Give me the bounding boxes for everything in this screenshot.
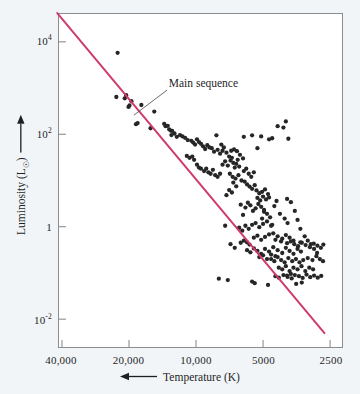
star-data-point [269, 252, 273, 256]
star-data-point [281, 273, 285, 277]
star-data-point [285, 197, 289, 201]
star-data-point [207, 145, 211, 149]
star-data-point [259, 205, 263, 209]
star-data-point [303, 234, 307, 238]
solar-symbol-icon: ☉ [22, 161, 31, 168]
star-data-point [139, 103, 143, 107]
star-data-point [253, 206, 257, 210]
star-data-point [248, 203, 252, 207]
star-data-point [233, 165, 237, 169]
star-data-point [285, 221, 289, 225]
star-data-point [284, 246, 288, 250]
star-data-point [276, 234, 280, 238]
star-data-point [284, 264, 288, 268]
star-data-point [298, 227, 302, 231]
star-data-point [312, 242, 316, 246]
star-data-point [218, 172, 222, 176]
star-data-point [276, 124, 280, 128]
y-axis-title-text: Luminosity (L☉) [16, 157, 28, 235]
star-data-point [283, 260, 287, 264]
star-data-point [314, 254, 318, 258]
star-data-point [226, 278, 230, 282]
star-data-point [263, 187, 267, 191]
star-data-point [203, 147, 207, 151]
x-tick-label: 10,000 [180, 354, 211, 366]
star-data-point [230, 156, 234, 160]
y-axis-ticks-group [59, 42, 66, 319]
star-data-point [236, 158, 240, 162]
star-data-point [228, 242, 232, 246]
star-data-point [285, 241, 289, 245]
star-data-point [273, 238, 277, 242]
star-data-point [233, 176, 237, 180]
star-data-point [217, 277, 221, 281]
star-data-point [308, 275, 312, 279]
star-data-point [290, 259, 294, 263]
star-data-point [270, 223, 274, 227]
hr-diagram-figure: 40,00020,00010,00050002500 104102110-2 M… [0, 0, 360, 394]
star-data-point [312, 273, 316, 277]
star-data-point [236, 173, 240, 177]
star-data-point [263, 247, 267, 251]
star-data-point [249, 175, 253, 179]
star-data-point [224, 151, 228, 155]
star-data-point [223, 159, 227, 163]
annotation-leader-line-group [134, 90, 167, 115]
star-data-point [261, 222, 265, 226]
star-data-point [286, 256, 290, 260]
star-data-point [258, 198, 262, 202]
star-data-point [319, 274, 323, 278]
star-data-point [291, 266, 295, 270]
star-data-point [260, 216, 264, 220]
star-data-point [299, 264, 303, 268]
star-data-point [291, 239, 295, 243]
star-data-point [241, 156, 245, 160]
star-data-point [297, 260, 301, 264]
star-data-point [279, 258, 283, 262]
star-data-point [252, 236, 256, 240]
star-data-point [294, 282, 298, 286]
x-axis-title-text: Temperature (K) [163, 371, 240, 383]
star-data-point [263, 235, 267, 239]
star-data-point [243, 224, 247, 228]
star-data-point [284, 233, 288, 237]
star-data-point [274, 199, 278, 203]
star-data-point [304, 272, 308, 276]
star-data-point [265, 219, 269, 223]
star-data-point [227, 188, 231, 192]
star-data-point [265, 257, 269, 261]
star-data-point [300, 280, 304, 284]
star-data-point [290, 276, 294, 280]
x-tick-label: 40,000 [45, 354, 76, 366]
star-data-point [175, 135, 179, 139]
star-data-point [267, 137, 271, 141]
star-data-point [299, 249, 303, 253]
star-data-point [284, 119, 288, 123]
x-tick-label: 2500 [320, 354, 343, 366]
star-data-point [255, 234, 259, 238]
x-tick-label: 5000 [252, 354, 275, 366]
star-data-point [211, 168, 215, 172]
star-data-point [285, 275, 289, 279]
y-axis-title: Luminosity (L☉) [14, 80, 27, 270]
star-data-point [186, 138, 190, 142]
plot-frame [58, 13, 343, 348]
star-data-point [291, 252, 295, 256]
star-data-point [287, 249, 291, 253]
star-data-point [312, 247, 316, 251]
star-data-point [293, 273, 297, 277]
star-data-point [293, 209, 297, 213]
star-data-point [255, 146, 259, 150]
star-data-point [234, 184, 238, 188]
star-data-point [235, 149, 239, 153]
star-data-point [272, 259, 276, 263]
star-data-point [238, 153, 242, 157]
star-data-point [259, 238, 263, 242]
star-data-point [114, 95, 118, 99]
star-data-point [303, 243, 307, 247]
annotation-main-sequence: Main sequence [169, 77, 238, 89]
star-data-point [135, 121, 139, 125]
star-data-point [266, 283, 270, 287]
star-data-point [250, 133, 254, 137]
star-data-point [250, 187, 254, 191]
